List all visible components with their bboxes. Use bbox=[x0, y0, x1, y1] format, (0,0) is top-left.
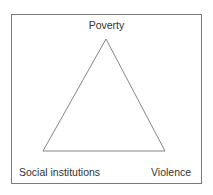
node-label-violence: Violence bbox=[151, 166, 191, 178]
node-label-poverty: Poverty bbox=[0, 19, 213, 31]
node-label-social-institutions: Social institutions bbox=[19, 166, 100, 178]
